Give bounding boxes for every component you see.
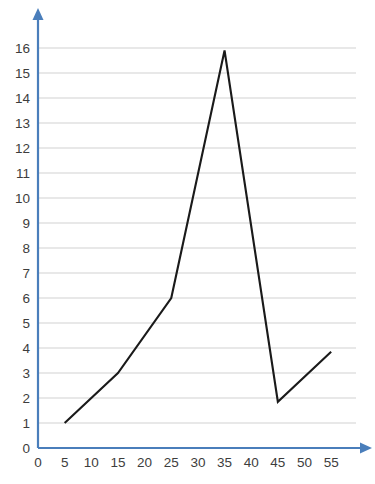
y-tick-label-15: 15 xyxy=(15,66,30,81)
y-tick-label-1: 1 xyxy=(22,416,30,431)
y-tick-label-2: 2 xyxy=(22,391,30,406)
y-axis-tick-labels: 012345678910111213141516 xyxy=(15,41,31,456)
x-tick-label-10: 10 xyxy=(84,455,99,470)
y-tick-label-0: 0 xyxy=(22,441,30,456)
x-tick-label-40: 40 xyxy=(244,455,259,470)
y-tick-label-8: 8 xyxy=(22,241,30,256)
x-tick-label-35: 35 xyxy=(217,455,232,470)
y-axis-arrow-icon xyxy=(33,8,44,20)
y-tick-label-16: 16 xyxy=(15,41,30,56)
axes xyxy=(33,8,373,454)
x-tick-label-45: 45 xyxy=(270,455,285,470)
y-tick-label-12: 12 xyxy=(15,141,30,156)
y-tick-label-3: 3 xyxy=(22,366,30,381)
y-tick-label-7: 7 xyxy=(22,266,30,281)
y-tick-label-14: 14 xyxy=(15,91,31,106)
x-tick-label-30: 30 xyxy=(190,455,205,470)
x-tick-label-25: 25 xyxy=(164,455,179,470)
data-line-1 xyxy=(65,51,332,424)
x-tick-label-20: 20 xyxy=(137,455,152,470)
data-series-group xyxy=(65,51,332,424)
line-chart: 012345678910111213141516 051015202530354… xyxy=(0,0,375,484)
y-tick-label-5: 5 xyxy=(22,316,30,331)
y-tick-label-4: 4 xyxy=(22,341,30,356)
gridlines xyxy=(38,48,356,423)
x-tick-label-55: 55 xyxy=(324,455,339,470)
x-tick-label-0: 0 xyxy=(34,455,42,470)
x-tick-label-50: 50 xyxy=(297,455,312,470)
y-tick-label-13: 13 xyxy=(15,116,30,131)
y-tick-label-10: 10 xyxy=(15,191,30,206)
x-axis-tick-labels: 0510152025303540455055 xyxy=(34,455,338,470)
y-tick-label-9: 9 xyxy=(22,216,30,231)
chart-container: 012345678910111213141516 051015202530354… xyxy=(0,0,375,484)
x-axis-arrow-icon xyxy=(360,443,372,454)
y-tick-label-11: 11 xyxy=(16,166,30,181)
x-tick-label-5: 5 xyxy=(61,455,69,470)
x-tick-label-15: 15 xyxy=(110,455,125,470)
y-tick-label-6: 6 xyxy=(22,291,30,306)
